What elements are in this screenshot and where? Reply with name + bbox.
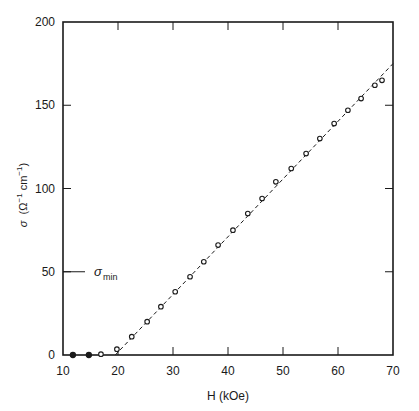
open-data-point: [202, 259, 207, 264]
x-axis-label: H (kOe): [207, 389, 249, 403]
data-points: [70, 78, 384, 358]
x-tick-label: 40: [221, 364, 235, 378]
chart: 10203040506070050100150200 H (kOe) σ (Ω−…: [0, 0, 419, 411]
tick-labels: 10203040506070050100150200: [35, 15, 400, 378]
open-data-point: [173, 289, 178, 294]
open-data-point: [129, 334, 134, 339]
x-tick-label: 30: [166, 364, 180, 378]
open-data-point: [359, 96, 364, 101]
open-data-point: [380, 78, 385, 83]
svg-text:σ (Ω−1 cm−1): σ (Ω−1 cm−1): [15, 163, 29, 227]
y-tick-label: 150: [35, 98, 55, 112]
y-tick-label: 0: [48, 348, 55, 362]
y-tick-label: 50: [42, 265, 56, 279]
open-data-point: [289, 166, 294, 171]
open-data-point: [332, 121, 337, 126]
open-data-point: [304, 151, 309, 156]
open-data-point: [188, 274, 193, 279]
fit-line-segment: [115, 64, 393, 355]
open-data-point: [99, 352, 104, 357]
x-tick-label: 10: [56, 364, 70, 378]
open-data-point: [373, 83, 378, 88]
open-data-point: [231, 228, 236, 233]
filled-data-point: [86, 352, 91, 357]
plot-border: [63, 22, 393, 355]
axis-ticks: [63, 22, 393, 355]
sigma-min-annotation: σ min: [94, 264, 118, 282]
filled-data-point: [70, 352, 75, 357]
y-tick-label: 200: [35, 15, 55, 29]
svg-text:min: min: [103, 272, 118, 282]
y-tick-label: 100: [35, 182, 55, 196]
open-data-point: [346, 108, 351, 113]
open-data-point: [145, 319, 150, 324]
open-data-point: [274, 180, 279, 185]
open-data-point: [115, 347, 120, 352]
x-tick-label: 20: [111, 364, 125, 378]
plot-frame: [63, 22, 393, 355]
x-tick-label: 60: [331, 364, 345, 378]
open-data-point: [260, 196, 265, 201]
x-tick-label: 50: [276, 364, 290, 378]
open-data-point: [318, 136, 323, 141]
x-tick-label: 70: [386, 364, 400, 378]
y-axis-label: σ (Ω−1 cm−1): [15, 163, 29, 227]
open-data-point: [216, 243, 221, 248]
fit-line: [115, 64, 393, 355]
open-data-point: [246, 211, 251, 216]
svg-text:σ: σ: [94, 264, 103, 279]
open-data-point: [159, 304, 164, 309]
